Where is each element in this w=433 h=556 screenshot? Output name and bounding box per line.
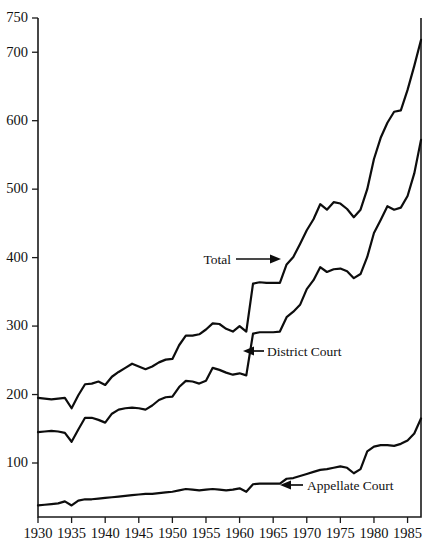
y-tick-label-750: 750 [6,9,28,25]
line-chart: 100200300400500600700750 193019351940194… [0,0,433,556]
x-tick-label-1940: 1940 [91,525,120,541]
chart-page: 100200300400500600700750 193019351940194… [0,0,433,556]
x-axis-tick-labels: 1930193519401945195019551960196519701975… [24,525,423,541]
y-tick-label-400: 400 [6,249,28,265]
x-tick-label-1955: 1955 [191,525,220,541]
district-court-annotation: District Court [243,344,342,359]
total-annotation-label: Total [203,252,231,267]
y-tick-label-300: 300 [6,317,28,333]
appellate-court-annotation-label: Appellate Court [307,478,394,493]
x-tick-label-1965: 1965 [259,525,288,541]
series-line-district-court [38,140,421,442]
series-line-total [38,40,421,408]
x-tick-label-1975: 1975 [326,525,355,541]
y-tick-label-600: 600 [6,112,28,128]
total-annotation: Total [203,252,281,267]
x-tick-label-1985: 1985 [393,525,422,541]
y-axis-ticks [32,18,38,463]
x-tick-label-1950: 1950 [158,525,187,541]
data-series-group [38,40,421,506]
total-annotation-arrow-head [270,255,281,264]
y-tick-label-100: 100 [6,454,28,470]
x-tick-label-1970: 1970 [292,525,321,541]
x-tick-label-1935: 1935 [57,525,86,541]
district-court-annotation-arrow-head [243,347,254,356]
y-tick-label-700: 700 [6,44,28,60]
x-tick-label-1930: 1930 [24,525,53,541]
x-tick-label-1980: 1980 [359,525,388,541]
x-tick-label-1960: 1960 [225,525,254,541]
x-axis-ticks [38,517,408,523]
y-axis-tick-labels: 100200300400500600700750 [6,9,28,470]
y-tick-label-500: 500 [6,180,28,196]
y-tick-label-200: 200 [6,386,28,402]
district-court-annotation-label: District Court [267,344,342,359]
x-tick-label-1945: 1945 [124,525,153,541]
appellate-court-annotation: Appellate Court [280,478,394,493]
